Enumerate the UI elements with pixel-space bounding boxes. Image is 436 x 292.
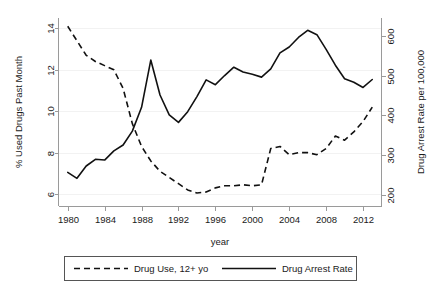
bottom-tick-label: 1980 — [58, 214, 79, 225]
left-tick-label: 10 — [45, 106, 56, 117]
left-tick-label: 14 — [45, 23, 56, 34]
chart-container: 68101214 200300400500600 198019841988199… — [0, 0, 436, 292]
right-tick-label: 400 — [385, 108, 396, 124]
bottom-tick-label: 1984 — [95, 214, 116, 225]
right-tick-label: 300 — [385, 148, 396, 164]
left-tick-label: 6 — [45, 192, 56, 197]
right-tick-label: 500 — [385, 69, 396, 85]
right-tick-label: 600 — [385, 29, 396, 45]
bottom-tick-label: 1996 — [205, 214, 226, 225]
right-axis-title: Drug Arrest Rate per 100,000 — [415, 50, 426, 174]
bottom-axis-ticks: 198019841988199219962000200420082012 — [58, 207, 374, 225]
bottom-tick-label: 2000 — [242, 214, 263, 225]
x-axis-title: year — [211, 236, 229, 247]
legend-label-drug-use: Drug Use, 12+ yo — [134, 263, 208, 274]
bottom-tick-label: 1988 — [132, 214, 153, 225]
right-tick-label: 200 — [385, 188, 396, 204]
bottom-tick-label: 2004 — [279, 214, 300, 225]
chart-background — [0, 0, 436, 292]
left-tick-label: 8 — [45, 151, 56, 156]
left-axis-title: % Used Drugs Past Month — [13, 56, 24, 168]
legend: Drug Use, 12+ yo Drug Arrest Rate — [65, 257, 357, 281]
left-tick-label: 12 — [45, 65, 56, 76]
bottom-tick-label: 2008 — [316, 214, 337, 225]
bottom-tick-label: 1992 — [168, 214, 189, 225]
drug-use-vs-arrest-rate-chart: 68101214 200300400500600 198019841988199… — [0, 0, 436, 292]
legend-label-drug-arrest-rate: Drug Arrest Rate — [282, 263, 353, 274]
bottom-tick-label: 2012 — [353, 214, 374, 225]
